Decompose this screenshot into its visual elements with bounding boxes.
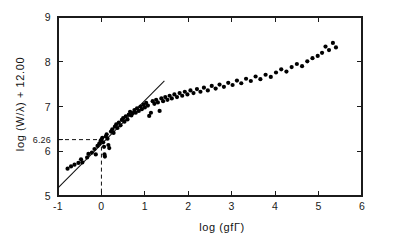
- data-point: [334, 45, 338, 49]
- y-axis-tick-labels: 567896.26: [33, 11, 51, 202]
- data-point: [198, 90, 202, 94]
- data-point: [300, 64, 304, 68]
- data-point: [175, 95, 179, 99]
- data-point: [258, 77, 262, 81]
- x-tick-label: -1: [53, 200, 63, 212]
- data-point: [226, 81, 230, 85]
- data-point: [76, 161, 80, 165]
- data-point: [80, 160, 84, 164]
- data-point: [103, 155, 107, 159]
- y-tick-label: 6: [45, 145, 51, 157]
- data-point: [279, 67, 283, 71]
- data-point: [202, 86, 206, 90]
- data-point: [320, 51, 324, 55]
- data-point: [195, 87, 199, 91]
- x-axis-tick-labels: -10123456: [53, 200, 365, 212]
- data-point: [101, 140, 105, 144]
- axis-frame: [58, 17, 362, 196]
- data-point: [323, 44, 327, 48]
- data-point: [111, 131, 115, 135]
- curve-of-growth-figure: -10123456 567896.26 log (gfΓ) log (W/λ) …: [0, 0, 395, 236]
- data-point: [90, 150, 94, 154]
- data-point: [239, 81, 243, 85]
- data-point: [65, 167, 69, 171]
- y-tick-label-special: 6.26: [33, 135, 51, 145]
- data-point: [210, 84, 214, 88]
- x-tick-label: 3: [229, 200, 235, 212]
- data-point: [92, 147, 96, 151]
- data-point: [165, 98, 169, 102]
- data-point: [94, 152, 98, 156]
- x-tick-label: 6: [359, 200, 365, 212]
- data-point: [206, 88, 210, 92]
- data-point: [102, 145, 106, 149]
- data-point: [249, 79, 253, 83]
- data-point: [146, 104, 150, 108]
- data-point: [149, 111, 153, 115]
- x-tick-label: 0: [98, 200, 104, 212]
- data-point: [185, 92, 189, 96]
- data-point: [305, 59, 309, 63]
- data-point: [310, 56, 314, 60]
- data-point: [290, 65, 294, 69]
- data-point: [180, 94, 184, 98]
- data-point: [244, 77, 248, 81]
- data-point: [217, 82, 221, 86]
- data-point: [274, 70, 278, 74]
- data-point: [156, 100, 160, 104]
- x-tick-label: 1: [142, 200, 148, 212]
- data-point: [107, 146, 111, 150]
- data-point: [125, 117, 129, 121]
- y-axis-title: log (W/λ) + 12.00: [14, 57, 26, 151]
- data-point: [170, 96, 174, 100]
- data-point: [105, 132, 109, 136]
- x-axis-title: log (gfΓ): [199, 221, 245, 233]
- data-point: [269, 75, 273, 79]
- data-point: [161, 99, 165, 103]
- data-point: [235, 78, 239, 82]
- plot-canvas: -10123456 567896.26 log (gfΓ) log (W/λ) …: [0, 0, 395, 236]
- y-tick-label: 9: [45, 11, 51, 23]
- data-point: [85, 155, 89, 159]
- data-point: [316, 54, 320, 58]
- data-point: [214, 87, 218, 91]
- data-point: [254, 74, 258, 78]
- data-point: [295, 62, 299, 66]
- x-tick-label: 4: [272, 200, 278, 212]
- data-point: [284, 69, 288, 73]
- data-point: [327, 48, 331, 52]
- linear-fit-line: [58, 81, 164, 188]
- x-tick-label: 2: [185, 200, 191, 212]
- data-point: [222, 85, 226, 89]
- data-point: [158, 109, 162, 113]
- data-point: [105, 137, 109, 141]
- data-point: [331, 41, 335, 45]
- y-tick-label: 7: [45, 101, 51, 113]
- y-tick-label: 8: [45, 56, 51, 68]
- y-tick-label: 5: [45, 190, 51, 202]
- data-point: [191, 91, 195, 95]
- x-tick-label: 5: [315, 200, 321, 212]
- data-point: [72, 163, 76, 167]
- data-point: [230, 83, 234, 87]
- data-point: [118, 123, 122, 127]
- data-point-cloud: [65, 41, 338, 171]
- x-axis-ticks: [101, 17, 318, 196]
- data-point: [263, 73, 267, 77]
